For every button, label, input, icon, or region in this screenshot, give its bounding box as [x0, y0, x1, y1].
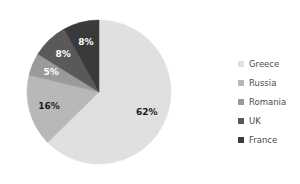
legend-label-france: France [249, 136, 277, 145]
legend-swatch-icon-uk [238, 118, 244, 124]
legend-item-greece[interactable]: Greece [238, 56, 300, 72]
legend: Greece Russia Romania UK France [238, 56, 300, 151]
legend-label-uk: UK [249, 117, 261, 126]
pie-data-label-uk: 8% [56, 49, 71, 59]
legend-item-uk[interactable]: UK [238, 113, 300, 129]
pie-data-label-romania: 5% [44, 67, 59, 77]
legend-label-romania: Romania [249, 98, 286, 107]
legend-swatch-icon-romania [238, 99, 244, 105]
pie-data-label-france: 8% [78, 37, 93, 47]
legend-item-romania[interactable]: Romania [238, 94, 300, 110]
pie-plot-area: 62%16%5%8%8% [18, 12, 180, 172]
legend-label-greece: Greece [249, 60, 279, 69]
legend-label-russia: Russia [249, 79, 276, 88]
legend-item-russia[interactable]: Russia [238, 75, 300, 91]
pie-data-label-greece: 62% [136, 107, 158, 117]
legend-swatch-icon-russia [238, 80, 244, 86]
pie-data-label-russia: 16% [38, 101, 60, 111]
legend-swatch-icon-greece [238, 61, 244, 67]
pie-chart-figure: 62%16%5%8%8% Greece Russia Romania UK Fr… [0, 0, 300, 184]
legend-item-france[interactable]: France [238, 132, 300, 148]
legend-swatch-icon-france [238, 137, 244, 143]
pie-slice-group [27, 20, 171, 164]
pie-svg: 62%16%5%8%8% [18, 12, 180, 172]
